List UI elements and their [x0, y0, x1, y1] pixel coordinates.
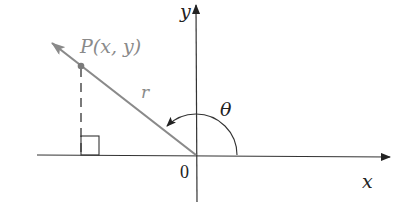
y-axis-label: y [179, 0, 191, 22]
angle-arc [167, 114, 237, 155]
radius-label: r [141, 82, 150, 102]
right-angle-marker [81, 136, 99, 155]
y-axis [196, 5, 197, 202]
point-p [78, 63, 85, 70]
x-axis-label: x [362, 170, 373, 192]
radius-ray [52, 43, 196, 155]
point-label: P(x, y) [79, 35, 141, 57]
angle-label: θ [220, 98, 232, 120]
polar-diagram: y x 0 P(x, y) r θ [0, 0, 407, 202]
origin-label: 0 [180, 162, 189, 182]
